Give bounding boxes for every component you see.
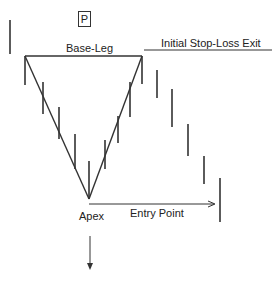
entry-point-label: Entry Point — [130, 208, 184, 219]
panel-label-box: P — [78, 11, 91, 27]
left-leg-line — [25, 56, 89, 199]
right-leg-line — [89, 56, 142, 199]
down-arrow-head — [87, 263, 93, 270]
apex-label: Apex — [79, 211, 104, 222]
base-leg-label: Base-Leg — [66, 43, 113, 54]
panel-label: P — [81, 13, 88, 25]
stop-loss-label: Initial Stop-Loss Exit — [161, 38, 261, 49]
